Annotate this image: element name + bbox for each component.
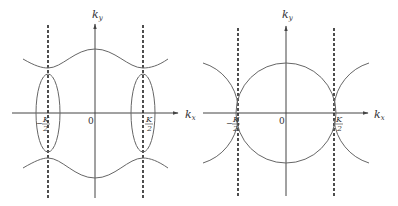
left-y-axis-label: ky <box>92 8 104 22</box>
left-neg-num: K <box>42 115 50 124</box>
diagram-canvas: ky kx 0 − K 2 K 2 ky kx 0 − K 2 K <box>0 0 398 206</box>
right-panel: ky kx 0 − K 2 K 2 <box>203 8 385 198</box>
left-pos-den: 2 <box>146 124 152 133</box>
left-neg-sign: − <box>36 119 43 128</box>
right-pos-num: K <box>335 115 343 124</box>
left-panel: ky kx 0 − K 2 K 2 <box>12 8 196 198</box>
figure: ky kx 0 − K 2 K 2 ky kx 0 − K 2 K <box>0 0 398 206</box>
right-neg-num: K <box>232 115 240 124</box>
left-neg-den: 2 <box>42 124 48 133</box>
right-x-axis-label: kx <box>374 108 385 122</box>
left-pos-num: K <box>145 115 153 124</box>
left-origin-label: 0 <box>88 116 94 126</box>
right-neg-sign: − <box>226 119 233 128</box>
left-x-axis-label: kx <box>185 108 196 122</box>
right-origin-label: 0 <box>279 116 285 126</box>
right-y-axis-label: ky <box>282 8 294 22</box>
right-pos-den: 2 <box>336 124 342 133</box>
right-neg-den: 2 <box>232 124 238 133</box>
